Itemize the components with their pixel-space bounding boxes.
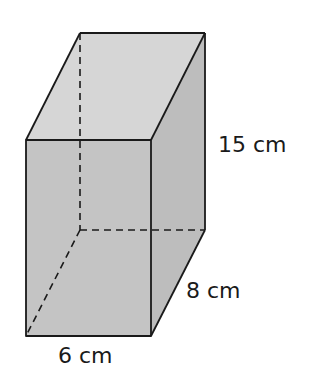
prism-diagram: 15 cm 8 cm 6 cm [0, 0, 312, 385]
height-label: 15 cm [218, 132, 287, 157]
width-label: 6 cm [58, 343, 113, 368]
front-face [26, 140, 151, 336]
depth-label: 8 cm [186, 278, 241, 303]
